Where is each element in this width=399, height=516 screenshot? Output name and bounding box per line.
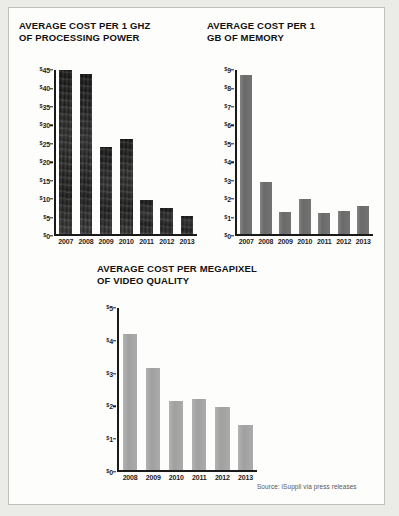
bar-2013: [238, 425, 252, 470]
y-tick-label: $3: [106, 370, 117, 378]
bar-slot: [116, 70, 136, 234]
bar-2008: [80, 74, 93, 234]
chart-title: AVERAGE COST PER 1 GB OF MEMORY: [207, 20, 379, 43]
x-tick-label: 2008: [256, 238, 275, 245]
bar-slot: [165, 308, 188, 470]
x-tick-label: 2013: [177, 238, 197, 245]
bar-slot: [177, 70, 197, 234]
plot-area: $0$5$10$15$20$25$30$35$40$45: [54, 70, 197, 236]
x-axis-labels: 2007200820092010201120122013: [237, 238, 373, 245]
x-tick-label: 2009: [96, 238, 116, 245]
y-tick-label: $2: [106, 402, 117, 410]
bar-2007: [240, 75, 252, 234]
y-tick-label: $3: [224, 177, 235, 185]
y-tick-label: $1: [106, 435, 117, 443]
bar-slot: [334, 70, 353, 234]
bar-slot: [295, 70, 314, 234]
y-tick-label: $4: [224, 158, 235, 166]
y-tick-label: $9: [224, 66, 235, 74]
bar-2009: [100, 147, 113, 235]
y-tick-label: $15: [40, 177, 55, 185]
x-axis-labels: 200820092010201120122013: [119, 474, 257, 481]
y-tick-label: $0: [43, 232, 54, 240]
bar-2013: [357, 206, 369, 234]
source-note: Source: iSuppli via press releases: [257, 483, 357, 490]
bar-slot: [136, 70, 156, 234]
x-tick-label: 2013: [234, 474, 257, 481]
bar-2010: [169, 401, 183, 471]
bar-2012: [160, 208, 173, 235]
y-tick-label: $5: [106, 304, 117, 312]
x-tick-label: 2011: [188, 474, 211, 481]
bar-2007: [59, 70, 72, 234]
x-tick-label: 2012: [157, 238, 177, 245]
figure-frame: AVERAGE COST PER 1 GHZ OF PROCESSING POW…: [8, 7, 385, 505]
bar-slot: [56, 70, 76, 234]
bar-2008: [123, 334, 137, 470]
bar-slot: [315, 70, 334, 234]
x-tick-label: 2008: [119, 474, 142, 481]
chart-memory: AVERAGE COST PER 1 GB OF MEMORY $0$1$2$3…: [207, 20, 379, 248]
bar-2009: [146, 368, 160, 470]
x-axis-line: [235, 234, 373, 236]
x-tick-label: 2012: [211, 474, 234, 481]
bar-slot: [354, 70, 373, 234]
chart-title: AVERAGE COST PER MEGAPIXEL OF VIDEO QUAL…: [97, 263, 312, 286]
chart-title: AVERAGE COST PER 1 GHZ OF PROCESSING POW…: [19, 20, 197, 43]
x-tick-label: 2010: [116, 238, 136, 245]
y-tick-label: $2: [224, 195, 235, 203]
x-tick-label: 2010: [295, 238, 314, 245]
x-tick-label: 2013: [354, 238, 373, 245]
page-background: AVERAGE COST PER 1 GHZ OF PROCESSING POW…: [0, 0, 399, 516]
x-tick-label: 2007: [56, 238, 76, 245]
y-tick-label: $45: [40, 66, 55, 74]
y-tick-label: $1: [224, 213, 235, 221]
bar-2009: [279, 212, 291, 235]
bar-slot: [234, 308, 257, 470]
bar-2012: [215, 407, 229, 470]
y-tick-label: $5: [43, 213, 54, 221]
bar-slot: [96, 70, 116, 234]
bar-2012: [338, 211, 350, 235]
y-tick-label: $4: [106, 337, 117, 345]
x-axis-line: [117, 470, 257, 472]
bar-slot: [256, 70, 275, 234]
y-tick-label: $6: [224, 121, 235, 129]
bar-slot: [276, 70, 295, 234]
bar-2011: [318, 213, 330, 235]
y-tick-label: $40: [40, 84, 55, 92]
bar-slot: [76, 70, 96, 234]
bar-slot: [188, 308, 211, 470]
bar-2011: [192, 399, 206, 470]
x-tick-label: 2007: [237, 238, 256, 245]
bar-2010: [120, 139, 133, 234]
bar-2013: [181, 216, 194, 235]
x-axis-labels: 2007200820092010201120122013: [56, 238, 197, 245]
bar-series: [56, 70, 197, 234]
y-tick-label: $5: [224, 140, 235, 148]
x-tick-label: 2009: [276, 238, 295, 245]
bar-slot: [142, 308, 165, 470]
x-tick-label: 2011: [136, 238, 156, 245]
plot-area: $0$1$2$3$4$5: [117, 308, 257, 472]
y-tick-label: $20: [40, 158, 55, 166]
bar-slot: [211, 308, 234, 470]
bar-2010: [299, 199, 311, 235]
bar-slot: [237, 70, 256, 234]
chart-processing-power: AVERAGE COST PER 1 GHZ OF PROCESSING POW…: [19, 20, 199, 248]
bar-series: [119, 308, 257, 470]
y-tick-label: $0: [224, 232, 235, 240]
plot-area: $0$1$2$3$4$5$6$7$8$9: [235, 70, 373, 236]
y-tick-label: $8: [224, 84, 235, 92]
y-tick-label: $35: [40, 103, 55, 111]
bar-slot: [119, 308, 142, 470]
bar-series: [237, 70, 373, 234]
y-tick-label: $10: [40, 195, 55, 203]
y-tick-label: $0: [106, 468, 117, 476]
chart-video-quality: AVERAGE COST PER MEGAPIXEL OF VIDEO QUAL…: [89, 263, 309, 493]
bar-slot: [157, 70, 177, 234]
y-tick-label: $7: [224, 103, 235, 111]
x-tick-label: 2008: [76, 238, 96, 245]
x-tick-label: 2011: [315, 238, 334, 245]
x-tick-label: 2012: [334, 238, 353, 245]
